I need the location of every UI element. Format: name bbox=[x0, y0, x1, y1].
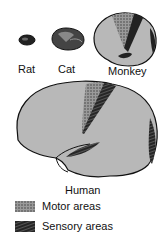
label-human: Human bbox=[65, 184, 100, 196]
label-rat: Rat bbox=[18, 63, 35, 75]
label-monkey: Monkey bbox=[108, 65, 147, 77]
rat-brain bbox=[19, 35, 35, 45]
label-cat: Cat bbox=[58, 63, 75, 75]
sensory-swatch bbox=[15, 221, 35, 232]
legend-motor-label: Motor areas bbox=[42, 200, 101, 212]
human-brain bbox=[17, 81, 157, 177]
legend-sensory-label: Sensory areas bbox=[42, 220, 113, 232]
monkey-brain bbox=[94, 13, 156, 66]
cat-brain bbox=[52, 28, 84, 50]
motor-swatch bbox=[15, 201, 35, 212]
